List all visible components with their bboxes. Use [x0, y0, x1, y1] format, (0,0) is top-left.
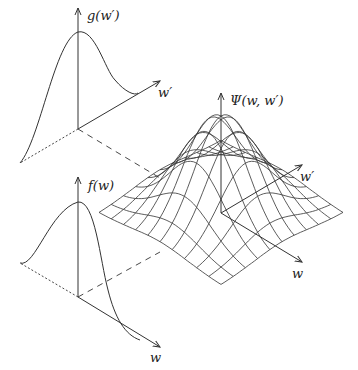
- f-back-axis: [20, 263, 78, 297]
- mesh-line: [221, 212, 343, 284]
- mesh-line: [209, 204, 331, 276]
- psi-w-label: w: [292, 266, 303, 281]
- g-axis-label: g(w′): [87, 8, 120, 23]
- g-wprime-axis: [78, 81, 160, 129]
- psi-wprime-label: w′: [300, 169, 314, 184]
- psi-axis-label: Ψ(w, w′): [230, 93, 283, 108]
- f-w-label: w: [150, 350, 161, 365]
- f-marginal-plot: f(w) w: [20, 177, 161, 365]
- f-curve: [20, 202, 140, 340]
- g-wprime-label: w′: [158, 85, 172, 100]
- mesh-line: [123, 193, 245, 268]
- mesh-line: [99, 212, 221, 284]
- g-marginal-plot: g(w′) w′: [20, 8, 172, 163]
- g-curve: [20, 32, 138, 163]
- mesh-line: [197, 193, 319, 268]
- mesh-line: [111, 204, 233, 276]
- mesh-line: [99, 140, 221, 212]
- f-w-axis: [78, 297, 160, 347]
- mesh-line: [172, 131, 294, 249]
- diagram-canvas: g(w′) w′ f(w) w Ψ(w, w′) w′ w: [0, 0, 358, 370]
- g-back-axis: [20, 129, 78, 163]
- f-axis-label: f(w): [87, 178, 114, 193]
- mesh-line: [111, 147, 233, 219]
